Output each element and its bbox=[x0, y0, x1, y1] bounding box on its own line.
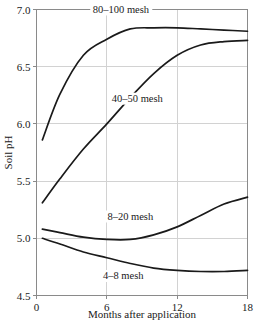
y-axis-title: Soil pH bbox=[2, 135, 14, 169]
series-label-4-8-mesh: 4–8 mesh bbox=[103, 270, 144, 281]
axis-titles: Months after applicationSoil pH bbox=[2, 135, 197, 320]
y-tick-label: 7.0 bbox=[17, 4, 31, 16]
y-tick-label: 4.5 bbox=[17, 290, 31, 302]
soil-ph-line-chart: 4.55.05.56.06.57.0061218 80–100 mesh40–5… bbox=[0, 0, 259, 325]
chart-figure: 4.55.05.56.06.57.0061218 80–100 mesh40–5… bbox=[0, 0, 259, 325]
plot-frame bbox=[37, 10, 248, 296]
plot-border bbox=[37, 10, 248, 296]
x-tick-label: 0 bbox=[34, 301, 40, 313]
series-label-8-20-mesh: 8–20 mesh bbox=[107, 211, 154, 222]
x-tick-label: 18 bbox=[242, 301, 254, 313]
data-curves bbox=[42, 28, 247, 272]
x-axis-title: Months after application bbox=[88, 308, 197, 320]
series-curve-4-8-mesh bbox=[42, 238, 247, 271]
y-tick-label: 5.5 bbox=[17, 175, 31, 187]
y-tick-label: 5.0 bbox=[17, 232, 31, 244]
series-label-40-50-mesh: 40–50 mesh bbox=[112, 93, 164, 104]
y-tick-label: 6.0 bbox=[17, 118, 31, 130]
grid-lines bbox=[37, 10, 248, 296]
series-curve-40-50-mesh bbox=[42, 40, 247, 202]
tick-marks bbox=[33, 10, 248, 300]
series-curve-80-100-mesh bbox=[42, 28, 247, 140]
y-tick-label: 6.5 bbox=[17, 61, 31, 73]
series-label-80-100-mesh: 80–100 mesh bbox=[93, 4, 150, 15]
tick-labels: 4.55.05.56.06.57.0061218 bbox=[17, 4, 254, 313]
